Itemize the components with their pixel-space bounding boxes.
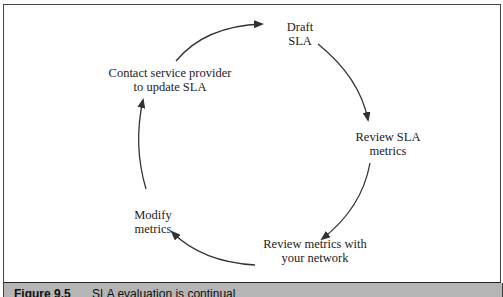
node-label-line: your network: [245, 251, 385, 265]
node-label-line: Contact service provider: [95, 66, 245, 80]
node-label-line: metrics: [338, 144, 438, 158]
figure-caption-bar: Figure 9.5 SLA evaluation is continual: [3, 283, 503, 297]
node-label-line: Modify: [118, 208, 188, 222]
node-contact-service-provider: Contact service provider to update SLA: [95, 66, 245, 94]
node-label-line: Review SLA: [338, 130, 438, 144]
arrow-review-sla-to-review-network: [322, 163, 370, 239]
node-label-line: Draft: [270, 20, 330, 34]
arrow-review-network-to-modify: [172, 232, 255, 265]
node-label-line: SLA: [270, 34, 330, 48]
arrow-modify-to-contact: [139, 100, 146, 189]
figure-caption-text: SLA evaluation is continual: [92, 287, 235, 297]
arrow-draft-to-review-sla: [318, 44, 368, 120]
node-label-line: to update SLA: [95, 80, 245, 94]
node-draft-sla: Draft SLA: [270, 20, 330, 48]
node-label-line: metrics: [118, 222, 188, 236]
figure-caption: Figure 9.5 SLA evaluation is continual: [14, 287, 235, 297]
node-label-line: Review metrics with: [245, 237, 385, 251]
figure-number: Figure 9.5: [14, 287, 71, 297]
arrow-contact-to-draft: [176, 24, 262, 61]
node-modify-metrics: Modify metrics: [118, 208, 188, 236]
node-review-sla-metrics: Review SLA metrics: [338, 130, 438, 158]
node-review-metrics-network: Review metrics with your network: [245, 237, 385, 265]
